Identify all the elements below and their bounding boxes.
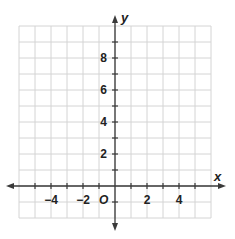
axes — [6, 15, 226, 231]
x-axis-label: x — [213, 169, 222, 184]
x-axis-left-arrow-icon — [6, 183, 14, 189]
y-tick-label: 8 — [100, 51, 107, 65]
y-tick-label: 6 — [100, 83, 107, 97]
y-axis-label: y — [120, 10, 129, 25]
origin-label: O — [99, 193, 109, 207]
y-tick-label: 2 — [100, 147, 107, 161]
x-tick-label: 4 — [176, 193, 183, 207]
coordinate-plane: −4−2242468 x y O — [0, 0, 235, 239]
y-tick-label: 4 — [100, 115, 107, 129]
y-axis-up-arrow-icon — [112, 15, 118, 23]
y-axis-down-arrow-icon — [112, 223, 118, 231]
x-tick-label: 2 — [144, 193, 151, 207]
x-tick-label: −2 — [76, 193, 90, 207]
x-tick-label: −4 — [44, 193, 58, 207]
